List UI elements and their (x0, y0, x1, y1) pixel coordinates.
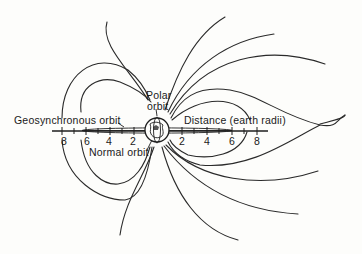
field-line (81, 80, 151, 112)
tick-label-left-6: 6 (84, 135, 90, 147)
earth-icon (145, 117, 169, 143)
label-normal-orbit: Normal orbit (89, 146, 149, 158)
field-line (120, 147, 154, 235)
label-distance: Distance (earth radii) (184, 114, 286, 126)
field-line (165, 17, 225, 110)
magnetosphere-diagram: Geosynchronous orbit Polar orbit Distanc… (0, 0, 362, 254)
field-line (162, 147, 238, 240)
label-polar-orbit-line2: orbit (147, 100, 168, 112)
field-line (170, 55, 325, 114)
field-line (106, 22, 148, 100)
tick-label-right-6: 6 (229, 135, 235, 147)
tick-label-left-4: 4 (106, 135, 112, 147)
tick-label-right-8: 8 (254, 135, 260, 147)
field-line (320, 115, 345, 124)
field-line (166, 145, 318, 180)
tick-label-left-2: 2 (130, 135, 136, 147)
tick-label-right-4: 4 (204, 135, 210, 147)
label-geosynchronous-orbit: Geosynchronous orbit (14, 114, 121, 126)
tick-label-left-8: 8 (61, 135, 67, 147)
tick-label-right-2: 2 (179, 135, 185, 147)
